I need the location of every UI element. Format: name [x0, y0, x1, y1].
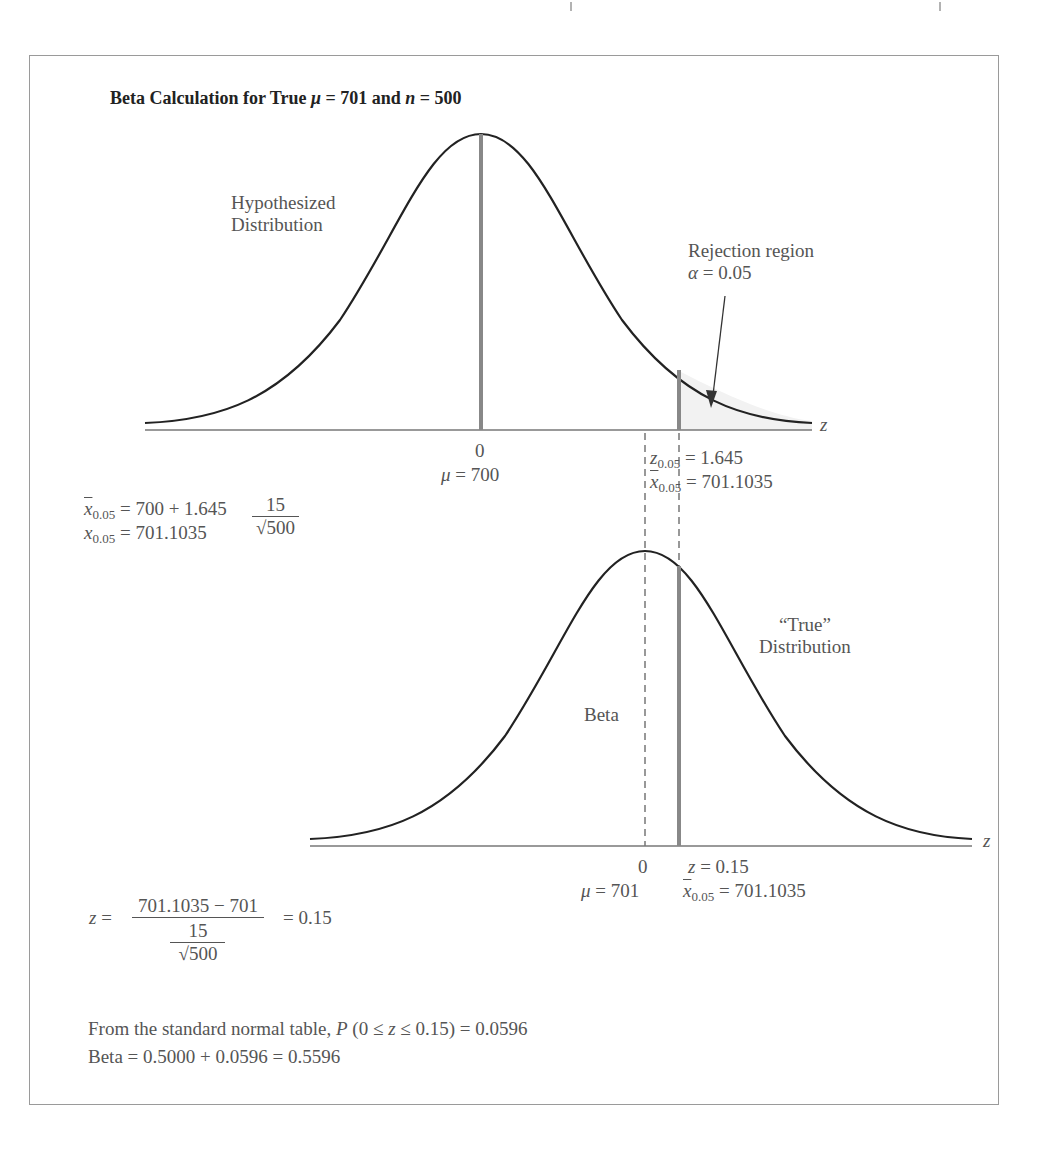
formula-expr: = 700 + 1.645	[115, 498, 227, 519]
conclusion-z: z	[388, 1018, 395, 1039]
formula-sub2: 0.05	[92, 531, 115, 546]
xbar-value-bottom: = 701.1035	[714, 880, 805, 901]
frac-numerator: 15	[252, 494, 299, 517]
conclusion-line2: Beta = 0.5000 + 0.0596 = 0.5596	[88, 1046, 340, 1068]
z-formula-lhs: z =	[89, 907, 112, 929]
mu-value: = 700	[451, 464, 500, 485]
bottom-axis-label: z	[983, 830, 990, 852]
z-inner-num: 15	[170, 920, 225, 943]
bottom-center-tick: 0	[638, 856, 648, 878]
zcrit-value: = 1.645	[680, 447, 743, 468]
z-critical-label: z0.05 = 1.645	[650, 447, 743, 472]
xbar-critical-label: x0.05 = 701.1035	[650, 471, 773, 496]
true-distribution-chart	[310, 551, 972, 846]
conclusion-P: P	[336, 1018, 348, 1039]
mu-symbol-bottom: μ	[581, 880, 591, 901]
true-label-line1: “True”	[759, 614, 851, 636]
hypothesized-label: Hypothesized Distribution	[231, 192, 335, 236]
conclusion-line1: From the standard normal table, P (0 ≤ z…	[88, 1018, 528, 1040]
title-text: Beta Calculation for True	[110, 88, 311, 108]
xbar-value: = 701.1035	[681, 471, 772, 492]
top-mu-label: μ = 700	[441, 464, 499, 486]
z-value: = 0.15	[695, 856, 748, 877]
true-distribution-label: “True” Distribution	[759, 614, 851, 658]
bottom-xbar-label: x0.05 = 701.1035	[683, 880, 806, 905]
z-true-label: z = 0.15	[688, 856, 749, 878]
conclusion-text: From the standard normal table,	[88, 1018, 336, 1039]
z-formula-fraction: 701.1035 − 701 15 √500	[132, 895, 264, 965]
top-center-tick: 0	[475, 440, 485, 462]
rejection-region-label: Rejection region α = 0.05	[688, 240, 814, 284]
title-suffix: = 500	[415, 88, 461, 108]
xbar-formula-line1: x0.05 = 700 + 1.645	[84, 498, 227, 523]
conclusion-expr-b: ≤ 0.15) = 0.0596	[396, 1018, 528, 1039]
alpha-symbol: α	[688, 262, 698, 283]
mu-value-bottom: = 701	[591, 880, 640, 901]
top-axis-label: z	[820, 414, 827, 436]
bottom-mu-label: μ = 701	[581, 880, 639, 902]
z-numerator: 701.1035 − 701	[132, 895, 264, 918]
zcrit-sub: 0.05	[657, 456, 680, 471]
rejection-arrow-shaft	[712, 296, 725, 403]
conclusion-expr-a: (0 ≤	[348, 1018, 389, 1039]
z-formula-result: = 0.15	[283, 907, 332, 929]
title-n: n	[405, 88, 415, 108]
beta-label: Beta	[584, 704, 619, 726]
rejection-label-text: Rejection region	[688, 240, 814, 262]
xbar-sub: 0.05	[658, 480, 681, 495]
z-inner-den: √500	[170, 943, 225, 965]
z-eq: =	[96, 907, 111, 928]
diagram-canvas	[0, 0, 1049, 1159]
title-mid: = 701 and	[321, 88, 405, 108]
true-label-line2: Distribution	[759, 636, 851, 658]
xbar-formula-fraction: 15 √500	[252, 494, 299, 539]
formula-expr2: = 701.1035	[115, 522, 206, 543]
xbar-formula-line2: x0.05 = 701.1035	[84, 522, 207, 547]
hypothesized-label-line1: Hypothesized	[231, 192, 335, 214]
formula-sub: 0.05	[92, 507, 115, 522]
hypothesized-label-line2: Distribution	[231, 214, 335, 236]
mu-symbol: μ	[441, 464, 451, 485]
alpha-value: = 0.05	[698, 262, 751, 283]
xbar-sub-bottom: 0.05	[691, 889, 714, 904]
figure-title: Beta Calculation for True μ = 701 and n …	[110, 88, 462, 109]
frac-denominator: √500	[252, 517, 299, 539]
z-denominator: 15 √500	[170, 920, 225, 965]
title-mu: μ	[311, 88, 321, 108]
true-curve	[310, 551, 972, 839]
